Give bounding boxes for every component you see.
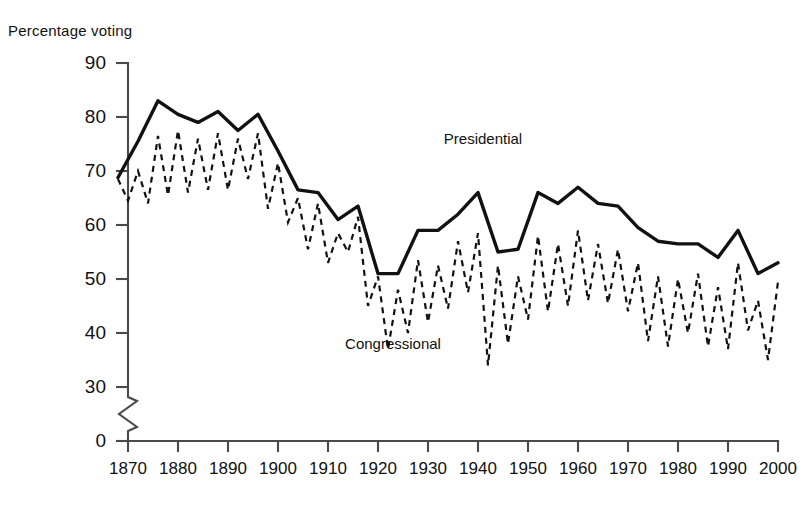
- x-tick-label: 1930: [409, 459, 447, 478]
- x-tick-label: 1950: [509, 459, 547, 478]
- x-tick-label: 1870: [109, 459, 147, 478]
- y-tick-label: 90: [85, 52, 106, 73]
- y-tick-label: 50: [85, 268, 106, 289]
- series-line-congressional: [118, 131, 778, 366]
- x-tick-label: 1960: [559, 459, 597, 478]
- x-tick-label: 1970: [609, 459, 647, 478]
- x-tick-label: 1980: [659, 459, 697, 478]
- x-axis-tick-group: 1870188018901900191019201930194019501960…: [109, 441, 797, 478]
- series-label-presidential: Presidential: [444, 130, 522, 147]
- y-tick-label: 60: [85, 214, 106, 235]
- x-tick-label: 1880: [159, 459, 197, 478]
- y-tick-label: 70: [85, 160, 106, 181]
- x-tick-label: 2000: [759, 459, 797, 478]
- x-tick-label: 1910: [309, 459, 347, 478]
- series-line-presidential: [118, 101, 778, 274]
- x-tick-label: 1900: [259, 459, 297, 478]
- y-tick-label: 40: [85, 322, 106, 343]
- x-tick-label: 1940: [459, 459, 497, 478]
- y-tick-label: 80: [85, 106, 106, 127]
- axis-lines: [119, 63, 778, 441]
- x-tick-label: 1890: [209, 459, 247, 478]
- x-tick-label: 1920: [359, 459, 397, 478]
- voter-turnout-chart: Percentage voting 030405060708090 187018…: [0, 0, 805, 507]
- axis-spine: [119, 63, 778, 441]
- series-label-congressional: Congressional: [345, 335, 441, 352]
- chart-plot-area: 030405060708090 187018801890190019101920…: [0, 0, 805, 507]
- x-tick-label: 1990: [709, 459, 747, 478]
- y-tick-label: 30: [85, 376, 106, 397]
- y-tick-label: 0: [95, 430, 106, 451]
- y-axis-tick-group: 030405060708090: [85, 52, 128, 451]
